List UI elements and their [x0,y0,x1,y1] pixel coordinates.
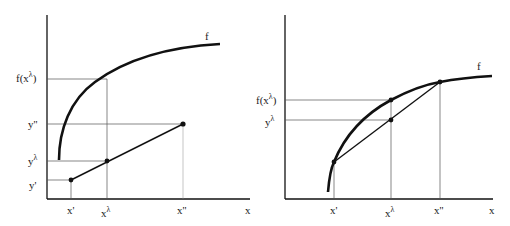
left-label-x-lambda: xλ [101,205,111,219]
left-label-f-x-lambda: f(xλ) [16,70,37,85]
right-point-y-lambda [389,118,394,123]
left-label-x-double: x'' [177,204,186,216]
right-chord [334,82,440,162]
concavity-diagram: f f(xλ) y'' yλ y' x' xλ x'' x f f(xλ) yλ… [0,0,510,226]
left-panel: f f(xλ) y'' yλ y' x' xλ x'' x [16,15,251,219]
right-point-f-x-lambda [389,98,394,103]
left-point-x-lambda [105,159,110,164]
left-point-x-double [180,121,185,126]
right-label-x-prime: x' [330,204,338,216]
left-x-axis-label: x [245,204,251,216]
left-label-y-prime: y' [29,179,37,191]
left-curve-label: f [205,30,209,42]
left-label-x-prime: x' [67,204,75,216]
left-label-y-lambda: yλ [28,153,38,167]
left-label-y-double: y'' [28,118,37,130]
right-label-x-double: x'' [434,204,443,216]
left-line-segment [71,124,183,180]
right-curve-f [328,76,492,192]
right-panel: f f(xλ) yλ x' xλ x'' x [256,15,495,219]
right-point-x-prime [332,160,337,165]
right-label-x-lambda: xλ [385,205,395,219]
right-x-axis-label: x [489,204,495,216]
left-point-x-prime [69,178,74,183]
right-point-x-double [438,80,443,85]
left-curve-f [59,44,220,160]
right-label-y-lambda: yλ [265,114,275,128]
right-curve-label: f [477,60,481,72]
right-label-f-x-lambda: f(xλ) [256,92,277,107]
